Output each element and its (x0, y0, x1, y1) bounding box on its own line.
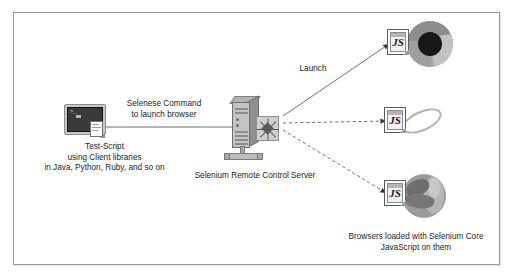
js-document-icon: JS (387, 29, 409, 55)
js-document-label: JS (385, 187, 405, 199)
firefox-browser-icon (402, 174, 446, 218)
browser-node-firefox: JS (384, 172, 454, 222)
script-document-icon (90, 121, 105, 138)
chrome-browser-icon (407, 21, 453, 67)
launch-label-text: Launch (291, 64, 335, 75)
test-script-caption-line-3: in Java, Python, Ruby, and so on (12, 163, 197, 174)
test-script-caption: Test-Script using Client libraries in Ja… (12, 142, 197, 174)
selenese-command-label: Selenese Command to launch browser (110, 99, 218, 120)
server-signal-burst-icon (256, 116, 279, 141)
js-document-label: JS (385, 114, 405, 126)
test-script-caption-line-2: using Client libraries (12, 153, 197, 164)
browsers-caption-line-2: JavaScript on them (330, 243, 502, 254)
server-stand-base (229, 153, 259, 160)
test-script-caption-line-1: Test-Script (12, 142, 197, 153)
js-document-icon: JS (384, 180, 406, 206)
server-stand-foot-left (224, 153, 230, 160)
selenese-command-line-2: to launch browser (110, 110, 218, 121)
diagram-canvas: >_ Test-Script using Client libraries in… (0, 0, 517, 280)
js-document-label: JS (388, 36, 408, 48)
selenese-command-line-1: Selenese Command (110, 99, 218, 110)
internet-explorer-browser-icon (400, 100, 446, 142)
console-cursor (76, 115, 81, 118)
server-front-face (232, 102, 250, 148)
server-caption: Selenium Remote Control Server (175, 171, 335, 182)
server-tower-icon (228, 96, 286, 162)
browsers-caption: Browsers loaded with Selenium Core JavaS… (330, 232, 502, 253)
server-caption-text: Selenium Remote Control Server (175, 171, 335, 182)
server-stand-foot-right (257, 153, 263, 160)
browser-node-chrome: JS (387, 20, 457, 70)
js-document-icon: JS (384, 107, 406, 133)
launch-label: Launch (291, 64, 335, 75)
browser-node-internet-explorer: JS (384, 100, 454, 146)
browsers-caption-line-1: Browsers loaded with Selenium Core (330, 232, 502, 243)
console-terminal-icon: >_ (64, 104, 106, 135)
